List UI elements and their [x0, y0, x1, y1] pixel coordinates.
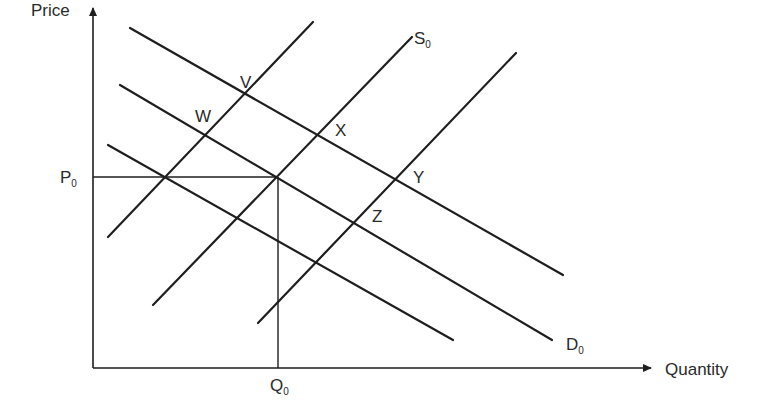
quantity-q0-label: Q0 — [270, 376, 289, 397]
demand-curve-upper — [130, 28, 563, 275]
price-p0-label: P0 — [60, 168, 77, 189]
supply-demand-diagram: Price Quantity P0 Q0 S0 D0 V W X Y Z — [0, 0, 778, 417]
demand-d0-label: D0 — [566, 335, 584, 356]
point-v-label: V — [240, 73, 252, 92]
supply-curve-left — [108, 22, 313, 237]
supply-curve-right — [258, 53, 516, 323]
x-axis-label: Quantity — [665, 360, 729, 379]
supply-s0-label: S0 — [414, 29, 431, 50]
y-axis-label: Price — [31, 1, 70, 20]
point-w-label: W — [195, 107, 211, 126]
point-z-label: Z — [372, 207, 382, 226]
supply-curve-s0 — [153, 37, 412, 305]
point-y-label: Y — [413, 168, 424, 187]
point-x-label: X — [335, 121, 346, 140]
